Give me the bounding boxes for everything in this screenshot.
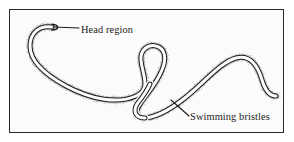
swimming-bristle-fringe (30, 27, 276, 118)
worm-body-fill (30, 27, 276, 118)
swimming-bristles-label: Swimming bristles (190, 111, 270, 122)
figure-container: Head region Swimming bristles (0, 0, 294, 142)
worm-body-outline (30, 27, 276, 118)
head-region-label: Head region (81, 24, 133, 35)
